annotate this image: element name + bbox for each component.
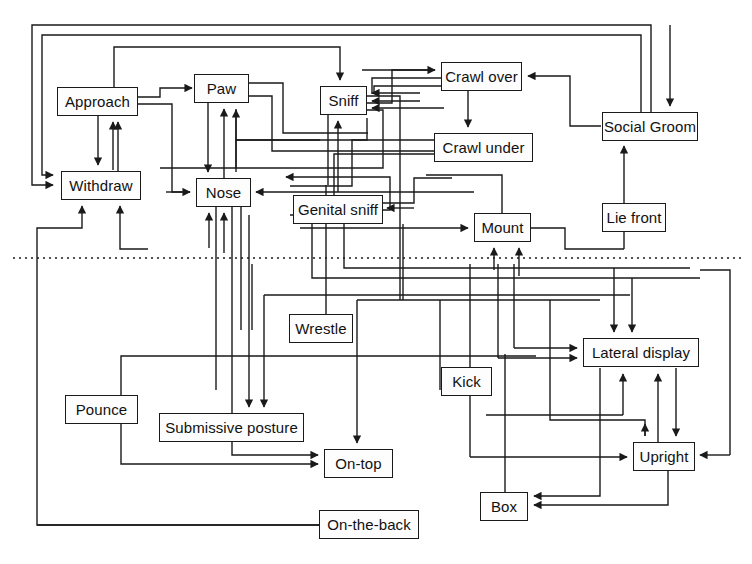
- edge-approach-paw-rail: [138, 88, 192, 97]
- node-sniff[interactable]: Sniff: [320, 86, 367, 115]
- node-lie-front[interactable]: Lie front: [602, 203, 666, 232]
- edge-socialgroom-crawlover: [528, 76, 601, 126]
- behaviour-transition-diagram: Approach Withdraw Paw Nose Sniff Crawl o…: [0, 0, 752, 564]
- edge-lateral-box: [534, 368, 600, 496]
- node-mount[interactable]: Mount: [474, 213, 531, 242]
- node-on-top[interactable]: On-top: [324, 449, 393, 478]
- node-genital-sniff[interactable]: Genital sniff: [293, 195, 383, 224]
- node-lateral-display[interactable]: Lateral display: [583, 338, 699, 367]
- edge-upright-box: [534, 471, 668, 505]
- node-crawl-under[interactable]: Crawl under: [434, 133, 533, 162]
- edge-layer: [0, 0, 752, 564]
- edge-lower-withdraw-2: [120, 206, 148, 249]
- node-nose[interactable]: Nose: [196, 178, 251, 207]
- node-withdraw[interactable]: Withdraw: [61, 171, 141, 200]
- node-submissive-posture[interactable]: Submissive posture: [159, 413, 304, 442]
- edge-crawlunder-left-1: [290, 140, 434, 186]
- node-pounce[interactable]: Pounce: [65, 395, 138, 424]
- node-approach[interactable]: Approach: [57, 87, 138, 116]
- node-kick[interactable]: Kick: [441, 367, 492, 396]
- node-box[interactable]: Box: [480, 492, 528, 521]
- edge-crawlover-sniff-2: [374, 86, 441, 92]
- edge-mount-up: [426, 175, 502, 213]
- node-social-groom[interactable]: Social Groom: [602, 112, 698, 141]
- edge-genitalsniff-right: [383, 178, 452, 203]
- edge-up-in-right-feed: [700, 270, 730, 455]
- node-paw[interactable]: Paw: [194, 74, 249, 103]
- node-on-the-back[interactable]: On-the-back: [319, 510, 419, 539]
- edge-ontheback-withdraw: [37, 206, 319, 525]
- node-crawl-over[interactable]: Crawl over: [441, 62, 522, 91]
- node-wrestle[interactable]: Wrestle: [289, 314, 353, 343]
- node-upright[interactable]: Upright: [633, 442, 695, 471]
- edge-approach-nose: [138, 104, 190, 192]
- edge-x-paw-b: [236, 140, 320, 172]
